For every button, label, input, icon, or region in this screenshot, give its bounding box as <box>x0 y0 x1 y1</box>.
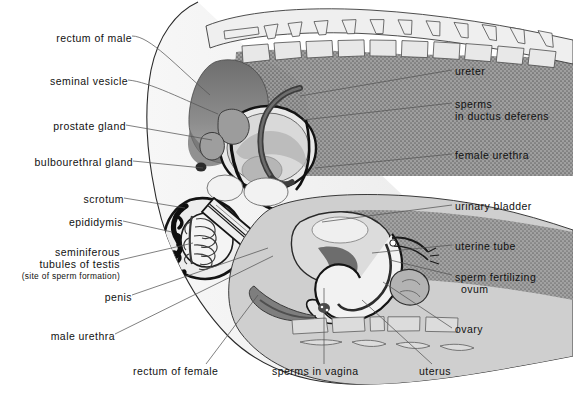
label-urinary-bladder: urinary bladder <box>455 200 532 212</box>
label-scrotum: scrotum <box>0 193 124 205</box>
label-epididymis: epididymis <box>0 216 123 228</box>
label-site-of-sperm-formation: (site of sperm formation) <box>0 270 120 282</box>
label-uterine-tube: uterine tube <box>455 240 516 252</box>
label-male-urethra: male urethra <box>0 330 115 342</box>
label-seminal-vesicle: seminal vesicle <box>0 75 128 87</box>
label-female-urethra: female urethra <box>455 149 529 161</box>
label-sperms-in-vagina: sperms in vagina <box>272 365 359 377</box>
label-seminiferous-tubules-of-testis: seminiferous tubules of testis (site of … <box>0 246 120 282</box>
label-ureter: ureter <box>455 65 485 77</box>
label-ovary: ovary <box>455 323 483 335</box>
bulbourethral-gland-structure <box>196 163 207 172</box>
prostate-gland-structure <box>200 132 225 160</box>
label-sperms-in-ductus-deferens: sperms in ductus deferens <box>455 98 549 122</box>
anatomy-figure: rectum of male seminal vesicle prostate … <box>0 0 573 410</box>
label-rectum-of-female: rectum of female <box>133 365 218 377</box>
label-penis: penis <box>0 291 132 303</box>
label-bulbourethral-gland: bulbourethral gland <box>0 156 133 168</box>
label-prostate-gland: prostate gland <box>0 120 126 132</box>
label-rectum-of-male: rectum of male <box>0 32 132 44</box>
label-sperm-fertilizing-ovum: sperm fertilizing ovum <box>455 271 536 295</box>
label-uterus: uterus <box>419 365 451 377</box>
